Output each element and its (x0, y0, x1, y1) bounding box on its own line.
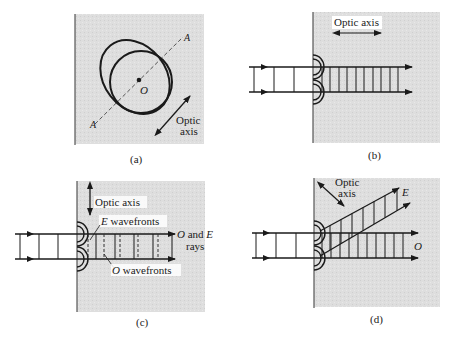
incident-wavefronts (254, 67, 294, 92)
label-o: O (140, 84, 148, 96)
label-o-wavefronts: O wavefronts (112, 264, 172, 276)
crystal-region (313, 12, 440, 143)
caption-b: (b) (368, 149, 381, 162)
caption-d: (d) (370, 313, 383, 326)
incident-wavefronts (20, 234, 58, 259)
center-point-o (137, 78, 142, 83)
panel-b: Optic axis (249, 12, 440, 162)
label-e-ray: E (401, 186, 409, 198)
label-optic-axis-line2: axis (180, 125, 198, 137)
birefringence-figure: O A A Optic axis (a) Optic axis (0, 0, 456, 340)
panel-c: Optic axis E wavefronts (15, 181, 213, 329)
panel-a: O A A Optic axis (a) (75, 14, 204, 166)
caption-a: (a) (130, 153, 143, 166)
label-o-and-e-rays: O and E (177, 228, 213, 240)
label-optic-axis-line2: axis (338, 187, 356, 199)
incident-wavefronts (256, 233, 296, 258)
panel-d: Optic axis (252, 176, 440, 326)
caption-c: (c) (136, 316, 149, 329)
label-optic-axis: Optic axis (334, 16, 379, 28)
label-rays: rays (186, 240, 204, 252)
label-o-ray: O (414, 240, 422, 252)
label-e-wavefronts: E wavefronts (100, 215, 159, 227)
label-optic-axis: Optic axis (95, 196, 140, 208)
label-a-top: A (183, 32, 191, 43)
label-a-bottom: A (89, 119, 97, 130)
